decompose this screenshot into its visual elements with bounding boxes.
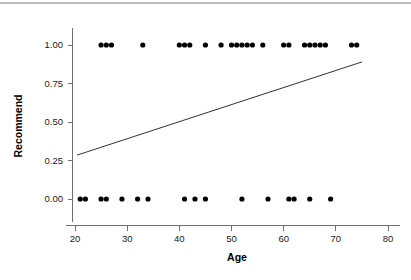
data-point: [187, 42, 192, 47]
data-point: [98, 196, 103, 201]
y-axis: 0.000.250.500.751.00: [45, 28, 73, 222]
data-point: [286, 42, 291, 47]
data-point: [177, 42, 182, 47]
data-point: [218, 42, 223, 47]
data-point: [83, 196, 88, 201]
data-points: [78, 42, 360, 201]
data-point: [135, 196, 140, 201]
regression-line: [77, 62, 362, 155]
x-axis-label: Age: [227, 251, 247, 263]
data-point: [323, 42, 328, 47]
data-point: [239, 196, 244, 201]
data-point: [119, 196, 124, 201]
y-tick-label: 0.00: [45, 193, 64, 204]
data-point: [328, 196, 333, 201]
y-tick-label: 0.75: [45, 78, 64, 89]
data-point: [239, 42, 244, 47]
data-point: [78, 196, 83, 201]
data-point: [302, 42, 307, 47]
y-tick-label: 0.50: [45, 116, 64, 127]
data-point: [104, 196, 109, 201]
data-point: [203, 42, 208, 47]
x-tick-label: 60: [278, 233, 289, 244]
y-axis-label: Recommend: [12, 94, 24, 157]
data-point: [140, 42, 145, 47]
y-axis-ticks: 0.000.250.500.751.00: [45, 39, 73, 204]
x-tick-label: 40: [174, 233, 185, 244]
data-point: [349, 42, 354, 47]
data-point: [192, 196, 197, 201]
x-axis-ticks: 20304050607080: [70, 226, 394, 245]
data-point: [104, 42, 109, 47]
data-point: [281, 42, 286, 47]
x-axis: 20304050607080: [66, 226, 400, 245]
data-point: [318, 42, 323, 47]
data-point: [292, 196, 297, 201]
data-point: [286, 196, 291, 201]
data-point: [234, 42, 239, 47]
data-point: [182, 196, 187, 201]
x-tick-label: 30: [122, 233, 133, 244]
data-point: [260, 42, 265, 47]
y-tick-label: 1.00: [45, 39, 64, 50]
data-point: [245, 42, 250, 47]
chart-figure: 0.000.250.500.751.00 20304050607080 Reco…: [0, 0, 411, 280]
scatter-plot: 0.000.250.500.751.00 20304050607080 Reco…: [0, 0, 411, 280]
data-point: [109, 42, 114, 47]
data-point: [145, 196, 150, 201]
x-tick-label: 50: [226, 233, 237, 244]
x-tick-label: 20: [70, 233, 81, 244]
data-point: [203, 196, 208, 201]
data-point: [229, 42, 234, 47]
data-point: [307, 42, 312, 47]
data-point: [354, 42, 359, 47]
data-point: [98, 42, 103, 47]
data-point: [265, 196, 270, 201]
data-point: [312, 42, 317, 47]
y-tick-label: 0.25: [45, 155, 64, 166]
data-point: [307, 196, 312, 201]
data-point: [182, 42, 187, 47]
x-tick-label: 80: [383, 233, 394, 244]
x-tick-label: 70: [331, 233, 342, 244]
data-point: [250, 42, 255, 47]
